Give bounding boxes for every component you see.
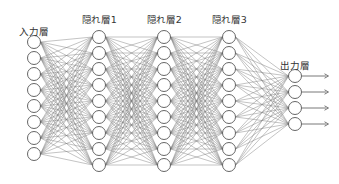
- output-layer-nodes: [289, 70, 302, 131]
- network-graph: [0, 0, 339, 184]
- neuron-node: [93, 159, 106, 172]
- hidden1-layer-nodes: [93, 31, 106, 172]
- neuron-node: [223, 63, 236, 76]
- neuron-node: [158, 47, 171, 60]
- neuron-node: [223, 79, 236, 92]
- neuron-node: [158, 63, 171, 76]
- neuron-node: [93, 127, 106, 140]
- neuron-node: [93, 63, 106, 76]
- neuron-node: [93, 95, 106, 108]
- neuron-node: [223, 47, 236, 60]
- hidden-layer-2-label: 隠れ層2: [147, 12, 182, 26]
- hidden3-layer-nodes: [223, 31, 236, 172]
- neuron-node: [158, 79, 171, 92]
- hidden-layer-3-label: 隠れ層3: [212, 12, 247, 26]
- neuron-node: [93, 111, 106, 124]
- neuron-node: [223, 143, 236, 156]
- neuron-node: [158, 95, 171, 108]
- neuron-node: [28, 100, 41, 113]
- neuron-node: [28, 148, 41, 161]
- neuron-node: [158, 111, 171, 124]
- hidden-layer-1-label: 隠れ層1: [82, 12, 117, 26]
- neuron-node: [223, 31, 236, 44]
- neuron-node: [93, 47, 106, 60]
- neuron-node: [28, 132, 41, 145]
- neuron-node: [158, 31, 171, 44]
- neuron-node: [223, 159, 236, 172]
- neuron-node: [158, 127, 171, 140]
- neuron-node: [223, 127, 236, 140]
- neuron-node: [28, 84, 41, 97]
- hidden2-layer-nodes: [158, 31, 171, 172]
- neuron-node: [28, 116, 41, 129]
- neuron-node: [289, 86, 302, 99]
- neuron-node: [28, 68, 41, 81]
- input-layer-label: 入力層: [19, 24, 48, 38]
- neuron-node: [158, 159, 171, 172]
- neural-network-diagram: 入力層 隠れ層1 隠れ層2 隠れ層3 出力層: [0, 0, 339, 184]
- output-arrows: [302, 74, 329, 126]
- input-layer-nodes: [28, 36, 41, 161]
- neuron-node: [289, 102, 302, 115]
- neuron-node: [223, 111, 236, 124]
- output-layer-label: 出力層: [280, 58, 309, 72]
- neuron-node: [223, 95, 236, 108]
- neuron-node: [289, 118, 302, 131]
- neuron-node: [93, 143, 106, 156]
- neuron-node: [158, 143, 171, 156]
- neuron-node: [93, 79, 106, 92]
- neuron-node: [93, 31, 106, 44]
- neuron-node: [28, 52, 41, 65]
